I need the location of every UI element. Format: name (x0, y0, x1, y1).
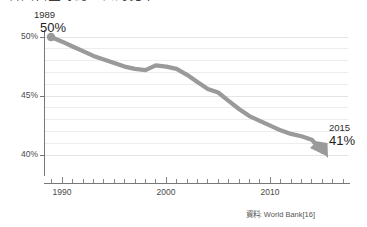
y-axis (40, 30, 44, 176)
y-tick-label-45: 45% (12, 91, 38, 100)
x-axis (44, 177, 350, 183)
x-tick-label-2000: 2000 (146, 188, 186, 197)
x-tick-label-1990: 1990 (42, 188, 82, 197)
annotation-end-year: 2015 (329, 122, 355, 133)
chart-plot-area: 50% 45% 40% 1990 2000 2010 1989 50% 2015… (0, 0, 367, 227)
annotation-start-value: 50% (40, 20, 66, 35)
annotation-end: 2015 41% (329, 122, 355, 148)
annotation-start-year: 1989 (34, 9, 66, 20)
annotation-start: 1989 50% (34, 9, 66, 35)
annotation-end-value: 41% (329, 133, 355, 148)
y-tick-label-40: 40% (12, 150, 38, 159)
source-note: 資料: World Bank[16] (246, 210, 315, 219)
data-line (51, 37, 322, 152)
x-tick-label-2010: 2010 (250, 188, 290, 197)
